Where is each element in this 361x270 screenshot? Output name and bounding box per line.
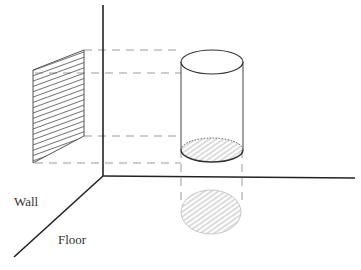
- horizontal-axis: [103, 176, 355, 178]
- floor-label: Floor: [58, 232, 86, 248]
- wall-label: Wall: [14, 194, 38, 210]
- wall-projection: [33, 50, 84, 163]
- projection-diagram: [0, 0, 361, 270]
- cylinder-top: [181, 50, 243, 74]
- cylinder: [181, 50, 243, 162]
- floor-projection: [181, 190, 241, 234]
